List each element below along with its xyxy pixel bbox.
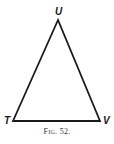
triangle-tuv bbox=[13, 20, 100, 121]
triangle-diagram bbox=[0, 0, 114, 144]
triangle-figure: U T V Fig. 52. bbox=[0, 0, 114, 144]
vertex-label-t: T bbox=[4, 116, 10, 126]
figure-caption: Fig. 52. bbox=[0, 127, 114, 136]
vertex-label-u: U bbox=[55, 7, 62, 17]
vertex-label-v: V bbox=[103, 116, 110, 126]
figure-caption-text: Fig. 52. bbox=[43, 127, 70, 136]
